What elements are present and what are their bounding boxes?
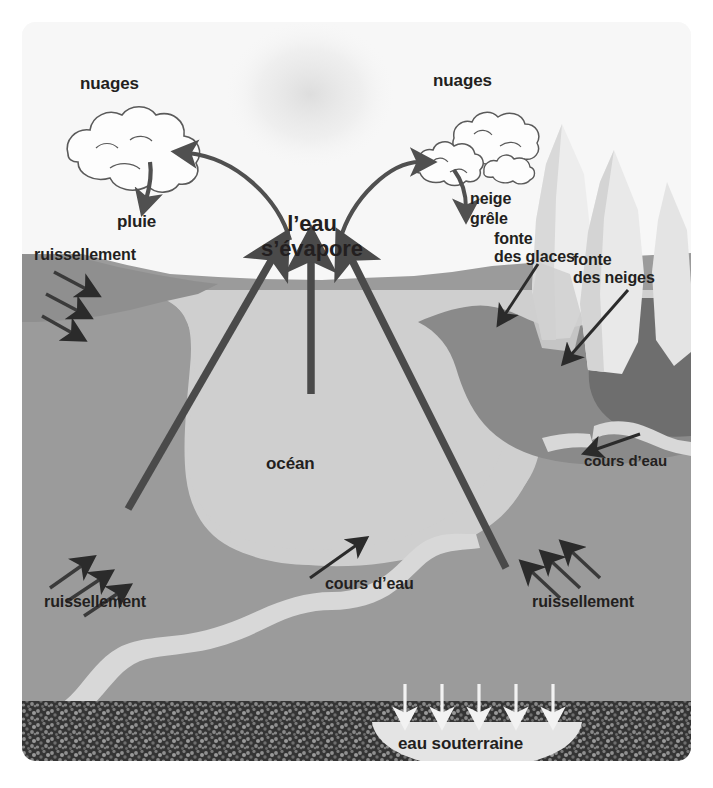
label-cours-deau-right: cours d’eau — [584, 453, 667, 470]
label-fonte-des-glaces: fonte des glaces — [494, 230, 575, 266]
label-nuages-right: nuages — [433, 71, 492, 90]
ice-melt-arrow — [504, 264, 538, 316]
stream-arrow-middle — [310, 544, 358, 578]
arrows-layer — [22, 22, 691, 761]
label-neige: neige — [470, 190, 511, 208]
label-grele: grêle — [470, 210, 508, 228]
label-fonte-des-neiges: fonte des neiges — [573, 251, 655, 287]
infiltration-arrows — [405, 684, 553, 716]
diagram-stage: nuages nuages pluie l’eau s’évapore neig… — [22, 22, 691, 761]
label-pluie: pluie — [117, 212, 156, 231]
snow-melt-arrow — [570, 290, 628, 356]
label-nuages-left: nuages — [80, 74, 139, 93]
label-ruissellement-bottom-right: ruissellement — [532, 593, 634, 611]
evaporation-arrow-left — [128, 254, 275, 509]
snow-hail-arrow — [454, 170, 466, 208]
runoff-arrows-top-left — [42, 272, 88, 334]
label-ocean: océan — [266, 454, 315, 473]
label-eau-souterraine: eau souterraine — [398, 734, 523, 753]
runoff-arrows-bottom-right — [530, 550, 600, 598]
label-eau-sevapore: l’eau s’évapore — [247, 212, 377, 261]
label-cours-deau-middle: cours d’eau — [325, 575, 414, 593]
label-ruissellement-top-left: ruissellement — [34, 246, 136, 264]
water-cycle-figure: Comprendre le phénomène — [22, 22, 691, 761]
label-ruissellement-bottom-left: ruissellement — [44, 593, 146, 611]
rain-arrow — [146, 162, 151, 200]
evaporation-arrow-right — [349, 254, 506, 568]
stream-arrow-right — [594, 434, 640, 450]
